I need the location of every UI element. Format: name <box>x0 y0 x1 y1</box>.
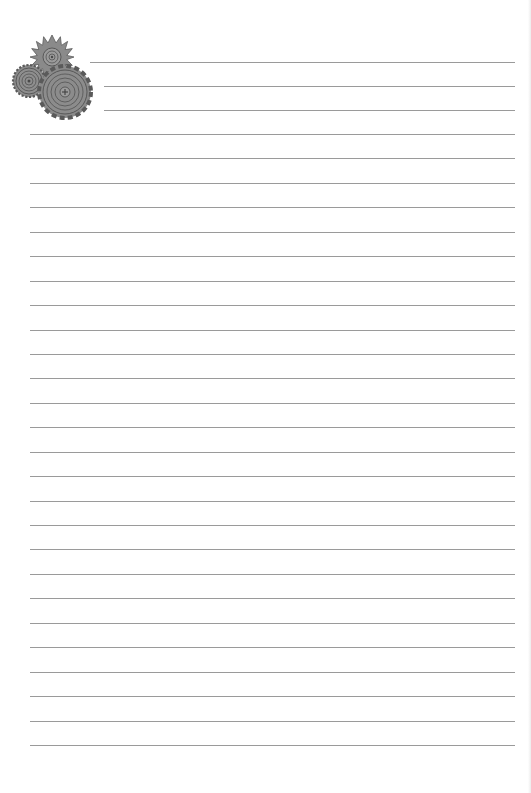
rule-line <box>30 598 515 599</box>
rule-line <box>30 281 515 282</box>
rule-line <box>30 354 515 355</box>
rule-line <box>30 672 515 673</box>
bottom-gear-icon <box>39 66 91 118</box>
rule-line <box>30 623 515 624</box>
rule-line <box>30 330 515 331</box>
rule-line <box>30 721 515 722</box>
rule-line <box>30 452 515 453</box>
rule-line <box>30 647 515 648</box>
header-rule-line <box>104 86 515 87</box>
rule-line <box>30 207 515 208</box>
rule-line <box>30 183 515 184</box>
rule-line <box>30 378 515 379</box>
rule-line <box>30 696 515 697</box>
rule-line <box>30 427 515 428</box>
rule-line <box>30 476 515 477</box>
rule-line <box>30 745 515 746</box>
rule-line <box>30 256 515 257</box>
rule-line <box>30 549 515 550</box>
header-rule-line <box>90 62 515 63</box>
rule-line <box>30 158 515 159</box>
rule-line <box>30 305 515 306</box>
rule-line <box>30 134 515 135</box>
rule-line <box>30 232 515 233</box>
gears-icon <box>4 30 94 124</box>
rule-line <box>30 501 515 502</box>
rule-line <box>30 574 515 575</box>
rule-line <box>30 525 515 526</box>
header-rule-line <box>104 110 515 111</box>
rule-line <box>30 403 515 404</box>
